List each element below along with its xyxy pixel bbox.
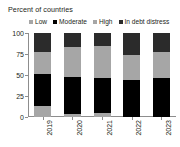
x-axis-tick-label: 2020 xyxy=(76,120,83,136)
bar-segment[interactable] xyxy=(94,78,111,112)
bar-stack[interactable] xyxy=(64,33,81,117)
bar-group xyxy=(94,33,111,117)
bar-segment[interactable] xyxy=(94,33,111,46)
x-axis-tick-label: 2023 xyxy=(165,120,172,136)
bar-segment[interactable] xyxy=(123,33,140,55)
y-axis-tick-label: 75 xyxy=(16,51,24,58)
bar-segment[interactable] xyxy=(64,77,81,115)
bar-segment[interactable] xyxy=(123,80,140,117)
y-axis-line xyxy=(28,33,29,117)
y-axis-tick xyxy=(25,54,28,55)
bar-segment[interactable] xyxy=(34,106,51,117)
bar-stack[interactable] xyxy=(34,33,51,117)
y-axis-tick-label: 0 xyxy=(20,114,24,121)
legend-swatch-icon xyxy=(93,20,97,24)
x-axis-tick-label: 2021 xyxy=(106,120,113,136)
legend-item-label: Moderate xyxy=(59,18,87,25)
bar-segment[interactable] xyxy=(123,55,140,80)
x-axis-tick xyxy=(132,117,133,120)
chart-legend: LowModerateHighIn debt distress xyxy=(29,17,169,26)
bar-segment[interactable] xyxy=(153,52,170,78)
bar-group xyxy=(34,33,51,117)
legend-swatch-icon xyxy=(53,20,57,24)
x-axis-tick-label: 2019 xyxy=(46,120,53,136)
bar-group xyxy=(153,33,170,117)
y-axis-tick-label: 100 xyxy=(12,30,24,37)
x-axis-tick xyxy=(43,117,44,120)
legend-item[interactable]: Moderate xyxy=(53,18,87,25)
bar-group xyxy=(123,33,140,117)
x-axis-tick xyxy=(102,117,103,120)
legend-item-label: In debt distress xyxy=(125,18,170,25)
bar-group xyxy=(64,33,81,117)
legend-item-label: Low xyxy=(35,18,47,25)
y-axis-tick xyxy=(25,75,28,76)
bar-segment[interactable] xyxy=(34,74,51,106)
chart-title: Percent of countries xyxy=(8,6,73,14)
bar-stack[interactable] xyxy=(123,33,140,117)
x-axis-tick xyxy=(72,117,73,120)
bar-segment[interactable] xyxy=(64,33,81,47)
x-axis-tick-label: 2022 xyxy=(135,120,142,136)
x-axis-tick xyxy=(161,117,162,120)
legend-swatch-icon xyxy=(119,20,123,24)
legend-item[interactable]: In debt distress xyxy=(119,18,170,25)
bar-stack[interactable] xyxy=(153,33,170,117)
bar-segment[interactable] xyxy=(153,78,170,117)
bar-segment[interactable] xyxy=(34,52,51,74)
y-axis-tick-label: 25 xyxy=(16,93,24,100)
chart-container: Percent of countries LowModerateHighIn d… xyxy=(0,0,180,147)
bar-segment[interactable] xyxy=(153,33,170,52)
legend-item-label: High xyxy=(99,18,113,25)
bar-segment[interactable] xyxy=(64,47,81,76)
legend-item[interactable]: Low xyxy=(29,18,47,25)
legend-item[interactable]: High xyxy=(93,18,113,25)
bar-segment[interactable] xyxy=(94,46,111,78)
plot-area: 0255075100 xyxy=(28,33,176,117)
y-axis-tick xyxy=(25,96,28,97)
y-axis-tick xyxy=(25,117,28,118)
bar-segment[interactable] xyxy=(34,33,51,52)
y-axis-tick-label: 50 xyxy=(16,72,24,79)
y-axis-tick xyxy=(25,33,28,34)
legend-swatch-icon xyxy=(29,20,33,24)
bar-stack[interactable] xyxy=(94,33,111,117)
